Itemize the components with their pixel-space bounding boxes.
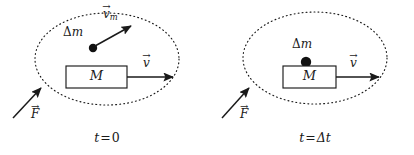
- particle-velocity-subscript-initial: m: [110, 12, 118, 22]
- particle-velocity-arrow-initial: [95, 26, 131, 46]
- vector-arrow-accent-f-final: →: [240, 102, 248, 112]
- vector-arrow-accent-f-initial: →: [31, 102, 39, 112]
- caption-initial: t=0: [47, 130, 167, 145]
- vector-arrow-accent-v-final: →: [349, 51, 357, 61]
- external-force-label-initial: →F: [31, 108, 39, 120]
- system-boundary-ellipse-initial: [35, 13, 179, 105]
- caption-final: t=Δt: [250, 130, 380, 145]
- block-velocity-label-final: →v: [350, 57, 357, 69]
- system-boundary-ellipse-final: [243, 12, 387, 104]
- external-force-label-final: →F: [240, 108, 248, 120]
- block-label-initial-text: M: [90, 68, 103, 83]
- delta-mass-m-initial: m: [72, 25, 83, 39]
- external-force-symbol-wrap-initial: →F: [31, 108, 39, 120]
- block-velocity-symbol-wrap-final: →v: [350, 57, 357, 69]
- delta-mass-m-final: m: [301, 37, 312, 51]
- delta-mass-label-initial: Δm: [63, 26, 83, 38]
- block-label-final: M: [283, 69, 336, 82]
- delta-mass-label-final: Δm: [292, 38, 312, 50]
- external-force-symbol-wrap-final: →F: [240, 108, 248, 120]
- block-velocity-label-initial: →v: [143, 57, 150, 69]
- vector-arrow-accent-vm: →: [102, 2, 110, 12]
- caption-initial-time-value: 0: [112, 130, 120, 145]
- caption-final-time-value: Δt: [317, 130, 331, 145]
- vector-arrow-accent-v-initial: →: [142, 51, 150, 61]
- block-label-final-text: M: [303, 68, 316, 83]
- particle-velocity-symbol-wrap-initial: →v: [103, 8, 110, 20]
- particle-velocity-label-initial: →vm: [103, 8, 118, 22]
- physics-figure: M Δm →vm →v →F t=0 M Δm →v →F t=Δt: [0, 0, 414, 155]
- delta-symbol-initial: Δ: [63, 25, 72, 39]
- caption-final-equals: =: [304, 130, 316, 145]
- caption-initial-equals: =: [99, 130, 111, 145]
- block-velocity-symbol-wrap-initial: →v: [143, 57, 150, 69]
- delta-symbol-final: Δ: [292, 37, 301, 51]
- block-label-initial: M: [66, 69, 127, 82]
